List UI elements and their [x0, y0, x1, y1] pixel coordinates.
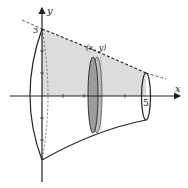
y-tick-label: 3	[33, 26, 38, 35]
volume-of-revolution-diagram: y x (x, y) 3 5	[0, 0, 188, 188]
x-end-label: 5	[143, 98, 149, 108]
y-axis-label: y	[46, 5, 53, 16]
x-axis-label: x	[175, 83, 181, 94]
curve-extension-left	[22, 20, 42, 29]
point-label: (x, y)	[86, 43, 106, 52]
disk-slice	[88, 57, 102, 133]
diagram-canvas: y x (x, y) 3 5	[0, 0, 188, 188]
